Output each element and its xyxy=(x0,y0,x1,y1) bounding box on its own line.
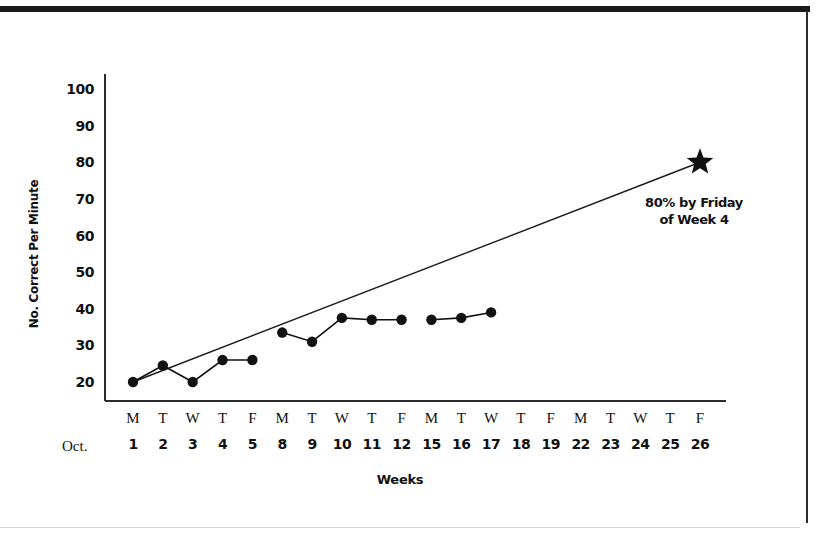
y-axis-tick-label: 80 xyxy=(52,154,94,170)
x-axis-day-label: F xyxy=(387,410,417,427)
x-axis-day-label: W xyxy=(476,410,506,427)
y-axis-tick-label: 30 xyxy=(52,337,94,353)
data-point xyxy=(486,307,496,317)
y-axis-tick-label: 60 xyxy=(52,228,94,244)
x-axis-day-label: W xyxy=(625,410,655,427)
data-point xyxy=(337,313,347,323)
y-axis-tick-label: 70 xyxy=(52,191,94,207)
x-axis-month-label: Oct. xyxy=(62,438,87,455)
goal-star-marker xyxy=(687,148,714,173)
page-bottom-border xyxy=(0,527,800,528)
x-axis-day-label: T xyxy=(148,410,178,427)
x-axis-day-label: T xyxy=(357,410,387,427)
y-axis-tick-label: 90 xyxy=(52,118,94,134)
chart-page: 1009080706050403020 No. Correct Per Minu… xyxy=(0,0,826,534)
x-axis-day-label: F xyxy=(237,410,267,427)
x-axis-day-label: F xyxy=(536,410,566,427)
x-axis-day-label: T xyxy=(655,410,685,427)
goal-annotation: 80% by Friday of Week 4 xyxy=(614,194,774,228)
x-axis-day-label: M xyxy=(118,410,148,427)
x-axis-day-label: W xyxy=(327,410,357,427)
data-point xyxy=(456,313,466,323)
y-axis-tick-label: 20 xyxy=(52,374,94,390)
goal-annotation-line1: 80% by Friday xyxy=(614,194,774,211)
data-point xyxy=(187,377,197,387)
y-axis-tick-label: 40 xyxy=(52,301,94,317)
data-point xyxy=(217,355,227,365)
x-axis-title: Weeks xyxy=(0,472,800,487)
y-axis-title: No. Correct Per Minute xyxy=(27,180,41,329)
y-axis-tick-label: 50 xyxy=(52,264,94,280)
x-axis-day-label: F xyxy=(685,410,715,427)
data-series-line xyxy=(133,312,491,382)
x-axis-day-label: T xyxy=(446,410,476,427)
x-axis-day-label: M xyxy=(416,410,446,427)
data-point xyxy=(307,337,317,347)
data-point xyxy=(158,360,168,370)
x-axis-date-label: 26 xyxy=(683,436,717,452)
goal-annotation-line2: of Week 4 xyxy=(614,211,774,228)
x-axis-day-label: T xyxy=(297,410,327,427)
chart-axes xyxy=(105,74,726,401)
x-axis-day-label: T xyxy=(595,410,625,427)
x-axis-day-label: M xyxy=(566,410,596,427)
x-axis-day-label: M xyxy=(267,410,297,427)
x-axis-day-label: T xyxy=(208,410,238,427)
page-right-border xyxy=(806,11,808,523)
goal-star-icon xyxy=(687,148,714,173)
data-point xyxy=(396,315,406,325)
x-axis-day-label: W xyxy=(178,410,208,427)
line-chart: 1009080706050403020 No. Correct Per Minu… xyxy=(0,14,800,514)
page-top-border xyxy=(0,6,810,12)
data-point xyxy=(128,377,138,387)
data-point xyxy=(367,315,377,325)
data-point xyxy=(426,315,436,325)
y-axis-tick-label: 100 xyxy=(52,81,94,97)
x-axis-day-label: T xyxy=(506,410,536,427)
data-point xyxy=(247,355,257,365)
data-point xyxy=(277,327,287,337)
